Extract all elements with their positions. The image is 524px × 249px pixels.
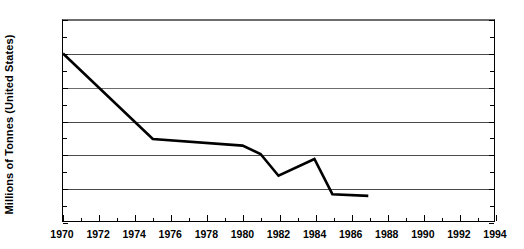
x-tick-label: 1994	[465, 228, 524, 240]
y-tick-major-right	[489, 223, 494, 224]
series-polyline	[63, 53, 368, 195]
y-tick-major	[63, 223, 68, 224]
x-tick-major	[496, 215, 497, 221]
y-axis-title: Millions of Tonnes (United States)	[0, 0, 18, 249]
data-series-line	[63, 20, 494, 221]
line-chart: Millions of Tonnes (United States) 14.01…	[0, 0, 524, 249]
plot-area	[62, 19, 495, 222]
